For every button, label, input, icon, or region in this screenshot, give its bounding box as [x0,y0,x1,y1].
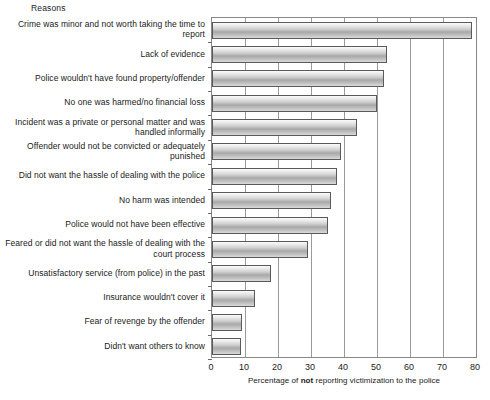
x-axis-title-prefix: Percentage of [248,376,301,385]
bar [212,119,357,136]
x-tick-label: 20 [272,362,282,372]
x-tick-label: 50 [371,362,381,372]
category-label: Offender would not be convicted or adequ… [0,141,205,161]
y-axis-tick [208,67,212,68]
x-axis-title: Percentage of not reporting victimizatio… [211,376,477,385]
bar [212,95,377,112]
x-tick-label: 10 [239,362,249,372]
y-axis-tick [208,42,212,43]
category-label: Crime was minor and not worth taking the… [0,19,205,39]
bar [212,290,255,307]
x-tick-label: 0 [208,362,213,372]
y-axis-tick [208,140,212,141]
category-label: No one was harmed/no financial loss [0,97,205,107]
category-label: Incident was a private or personal matte… [0,117,205,137]
bar [212,46,387,63]
category-label-column: Crime was minor and not worth taking the… [0,17,208,358]
y-axis-tick [208,115,212,116]
y-axis-tick [208,310,212,311]
category-label: Police wouldn't have found property/offe… [0,73,205,83]
gridline [311,18,312,357]
bar [212,22,472,39]
bar [212,314,242,331]
bar [212,265,271,282]
gridline [344,18,345,357]
x-axis-title-suffix: reporting victimization to the police [313,376,440,385]
bar [212,143,341,160]
category-label: Did not want the hassle of dealing with … [0,170,205,180]
bar [212,217,328,234]
category-label: Didn't want others to know [0,341,205,351]
bar [212,192,331,209]
bar [212,338,241,355]
category-label: Unsatisfactory service (from police) in … [0,268,205,278]
plot-area [211,17,477,358]
y-axis-tick [208,335,212,336]
y-axis-tick [208,164,212,165]
category-label: No harm was intended [0,195,205,205]
reasons-column-header: Reasons [31,3,66,13]
x-axis-title-emphasis: not [301,376,314,385]
bar [212,70,384,87]
x-tick-label: 60 [404,362,414,372]
y-axis-tick [208,91,212,92]
x-tick-label: 40 [338,362,348,372]
y-axis-tick [208,359,212,360]
category-label: Feared or did not want the hassle of dea… [0,238,205,258]
category-label: Lack of evidence [0,49,205,59]
y-axis-tick [208,213,212,214]
y-axis-tick [208,262,212,263]
gridline [410,18,411,357]
gridline [377,18,378,357]
y-axis-tick [208,237,212,238]
gridline [278,18,279,357]
y-axis-tick [208,286,212,287]
x-tick-label: 70 [437,362,447,372]
bar [212,241,308,258]
category-label: Fear of revenge by the offender [0,316,205,326]
y-axis-tick [208,189,212,190]
x-tick-label: 30 [305,362,315,372]
x-tick-label: 80 [470,362,480,372]
bar-chart-figure: Reasons Crime was minor and not worth ta… [0,0,490,400]
bar [212,168,337,185]
gridline [443,18,444,357]
category-label: Insurance wouldn't cover it [0,292,205,302]
category-label: Police would not have been effective [0,219,205,229]
